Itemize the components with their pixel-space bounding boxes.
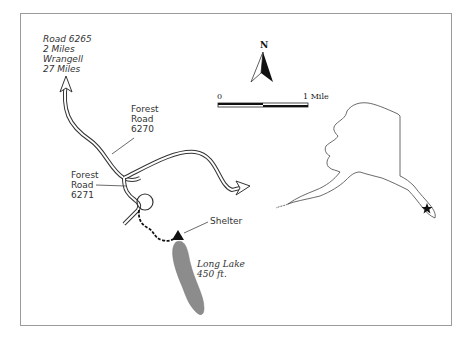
north-arrow-left-icon xyxy=(251,52,263,82)
shelter-icon xyxy=(172,230,184,240)
scale-end-label: 1 Mile xyxy=(303,92,329,101)
trail-path xyxy=(139,210,176,241)
north-arrow-right-icon xyxy=(261,52,273,82)
shelter-leader-line xyxy=(184,222,208,233)
lake-name-label: Long Lake xyxy=(196,259,245,269)
destination-label: Road 6265 2 Miles Wrangell 27 Miles xyxy=(43,34,92,74)
trail-map: Road 6265 2 Miles Wrangell 27 Miles Shel… xyxy=(0,0,473,340)
forest-road-6271-leader-line xyxy=(96,185,126,186)
svg-text:Road: Road xyxy=(71,180,94,190)
north-arrow: N xyxy=(251,40,273,82)
destination-road: Road 6265 xyxy=(43,34,92,44)
alaska-outline xyxy=(288,103,435,218)
forest-road-6270-leader-line xyxy=(112,138,134,154)
alaska-inset xyxy=(276,103,435,218)
svg-text:Road: Road xyxy=(131,114,154,124)
destination-town: Wrangell xyxy=(43,54,83,64)
destination-town-distance: 27 Miles xyxy=(43,64,81,74)
scale-start-label: 0 xyxy=(217,92,222,101)
shelter-label: Shelter xyxy=(210,216,243,226)
forest-road-6271-label: Forest Road 6271 xyxy=(71,170,99,200)
forest-road-6270-label: Forest Road 6270 xyxy=(131,104,159,134)
svg-text:Forest: Forest xyxy=(71,170,99,180)
north-label: N xyxy=(260,40,268,50)
lake-elevation-label: 450 ft. xyxy=(196,269,227,279)
svg-text:Forest: Forest xyxy=(131,104,159,114)
scale-bar: 0 1 Mile xyxy=(217,92,329,107)
destination-road-distance: 2 Miles xyxy=(43,44,75,54)
svg-text:6271: 6271 xyxy=(71,190,94,200)
location-star-icon xyxy=(422,203,433,214)
svg-text:6270: 6270 xyxy=(131,124,154,134)
